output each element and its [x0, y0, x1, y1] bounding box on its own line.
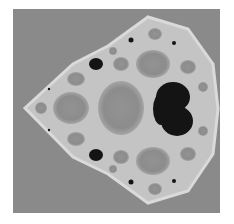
fractal-image — [13, 9, 220, 213]
fractal-graphic — [13, 9, 220, 213]
